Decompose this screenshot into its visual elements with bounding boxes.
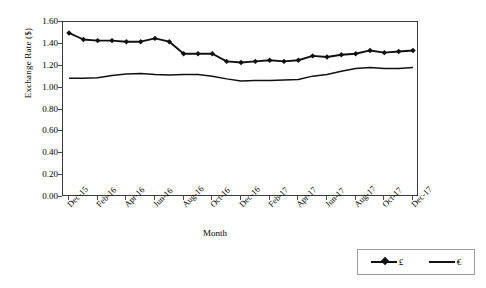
y-tick-label: 1.40 [42, 38, 58, 48]
series-marker-pound [195, 51, 200, 56]
y-tick-mark [58, 152, 62, 153]
chart-legend: £ € [357, 249, 475, 275]
series-marker-pound [238, 60, 243, 65]
y-tick-label: 0.80 [42, 104, 58, 114]
x-axis-title-text: Month [203, 228, 227, 238]
legend-label-pound: £ [399, 258, 404, 267]
series-marker-pound [152, 36, 157, 41]
legend-label-euro: € [457, 258, 462, 267]
y-tick-mark [58, 174, 62, 175]
series-marker-pound [382, 50, 387, 55]
series-marker-pound [324, 54, 329, 59]
series-line-euro [69, 67, 413, 81]
y-tick-label: 0.60 [42, 125, 58, 135]
series-marker-pound [310, 53, 315, 58]
series-marker-pound [138, 39, 143, 44]
series-marker-pound [410, 48, 415, 53]
series-marker-pound [367, 48, 372, 53]
y-tick-mark [58, 87, 62, 88]
series-marker-pound [353, 51, 358, 56]
legend-swatch-line-icon [429, 257, 455, 267]
legend-item-euro: € [429, 257, 462, 267]
series-marker-pound [281, 59, 286, 64]
y-tick-mark [58, 130, 62, 131]
chart-figure: Exchange Rate ($) 0.000.200.400.600.801.… [0, 0, 486, 288]
series-marker-pound [124, 39, 129, 44]
y-tick-label: 0.00 [42, 191, 58, 201]
y-tick-label: 1.60 [42, 16, 58, 26]
plot-lines-svg [63, 22, 419, 197]
series-marker-pound [267, 58, 272, 63]
y-tick-mark [58, 43, 62, 44]
y-tick-label: 0.40 [42, 147, 58, 157]
series-marker-pound [296, 58, 301, 63]
series-marker-pound [109, 38, 114, 43]
plot-area [62, 21, 418, 196]
x-axis-title: Month [0, 228, 486, 238]
legend-item-pound: £ [371, 257, 404, 267]
y-tick-mark [58, 196, 62, 197]
y-tick-label: 1.00 [42, 82, 58, 92]
y-tick-mark [58, 21, 62, 22]
series-marker-pound [253, 59, 258, 64]
series-marker-pound [339, 52, 344, 57]
y-tick-label: 1.20 [42, 60, 58, 70]
series-line-pound [69, 33, 413, 63]
series-marker-pound [396, 49, 401, 54]
series-marker-pound [95, 38, 100, 43]
y-tick-mark [58, 109, 62, 110]
legend-swatch-diamond-icon [371, 257, 397, 267]
y-tick-label: 0.20 [42, 169, 58, 179]
y-tick-mark [58, 65, 62, 66]
y-axis-tick-labels: 0.000.200.400.600.801.001.201.401.60 [24, 0, 58, 288]
